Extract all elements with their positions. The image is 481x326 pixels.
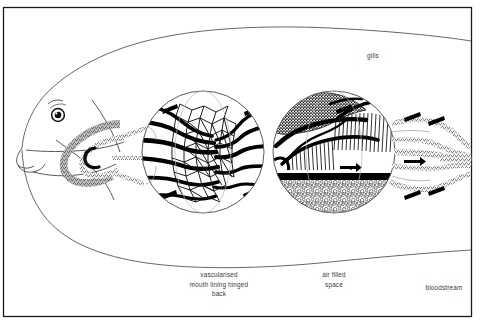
label-gills: gills	[367, 52, 379, 60]
bloodstream-label: bloodstream	[426, 284, 463, 291]
vascularised-line-3: back	[212, 290, 227, 297]
air-filled-line-2: space	[325, 281, 343, 289]
vascularised-line-2: mouth lining hinged	[190, 281, 249, 289]
fish-respiration-diagram: gills vascularised mouth lining hinged b…	[0, 0, 481, 326]
vascularised-line-1: vascularised	[200, 271, 238, 278]
gills-label: gills	[367, 52, 379, 60]
fish-eye	[52, 109, 65, 122]
air-filled-line-1: air filled	[322, 271, 346, 278]
label-bloodstream: bloodstream	[426, 284, 463, 291]
figure-root: gills vascularised mouth lining hinged b…	[0, 0, 481, 326]
septum-bar	[270, 173, 400, 180]
label-air-filled-space: air filled space	[322, 271, 346, 289]
